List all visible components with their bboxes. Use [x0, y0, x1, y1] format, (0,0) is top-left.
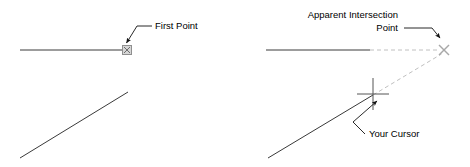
first-point-leader-line: [127, 26, 153, 43]
right-panel-group: [266, 28, 449, 158]
apparent-intersection-snap-square-icon: [123, 46, 132, 55]
first-point-label: First Point: [155, 20, 198, 31]
apparent-intersection-label-line-1: Apparent Intersection: [308, 9, 398, 20]
apparent-intersection-leader-line: [404, 28, 440, 38]
right-diagonal-extension-dashed: [373, 54, 442, 95]
crosshair-cursor-icon: [357, 78, 389, 110]
diagram-vector-layer: First Point Apparent Intersection Point …: [0, 0, 470, 167]
left-diagonal-line: [20, 92, 128, 158]
left-panel-group: [20, 26, 152, 158]
x-cross-marker-icon: [439, 45, 449, 55]
your-cursor-label: Your Cursor: [369, 128, 419, 139]
diagram-canvas: First Point Apparent Intersection Point …: [0, 0, 470, 167]
apparent-intersection-label-line-2: Point: [376, 22, 398, 33]
